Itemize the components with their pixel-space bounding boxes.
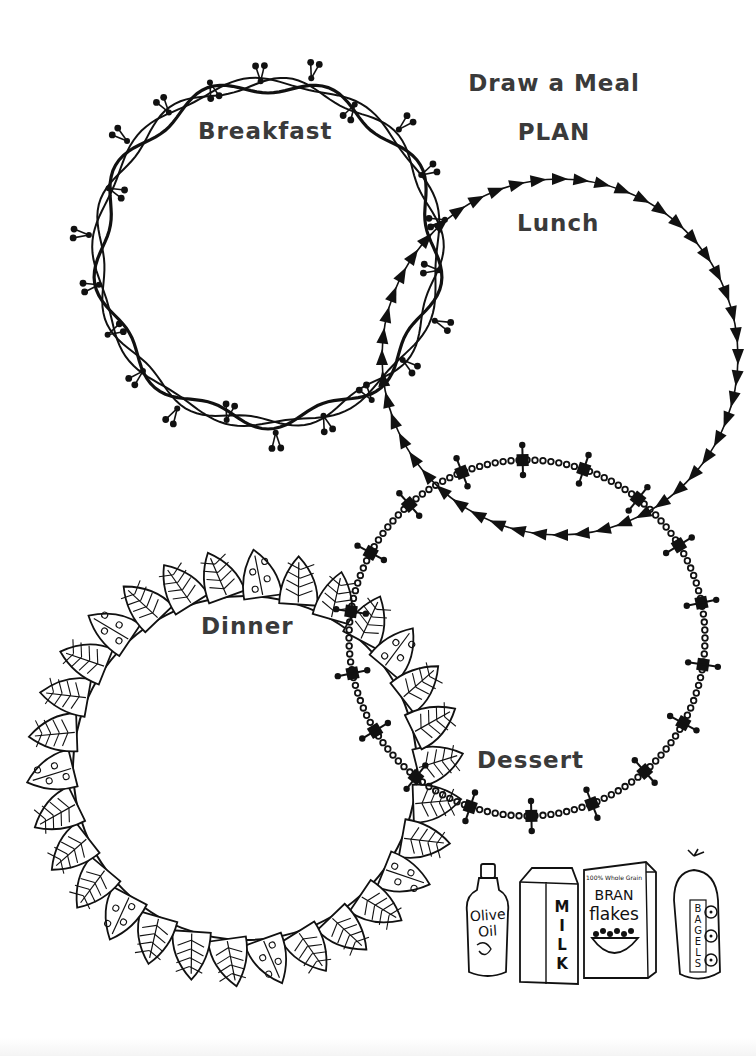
svg-text:flakes: flakes [589, 904, 639, 924]
paper-edge-shading [0, 1038, 756, 1056]
milk-carton-icon: MILK [520, 868, 578, 984]
svg-text:L: L [557, 936, 567, 954]
svg-text:100% Whole Grain: 100% Whole Grain [586, 874, 642, 881]
bagels-bag-icon: BAGELS [674, 849, 720, 979]
title-line-1: Draw a Meal [452, 72, 656, 95]
groceries-illustration: OliveOil MILK 100% Whole GrainBRANflakes… [467, 849, 720, 984]
svg-text:E: E [695, 936, 701, 947]
svg-text:L: L [695, 947, 701, 958]
coloring-page: OliveOil MILK 100% Whole GrainBRANflakes… [0, 0, 756, 1056]
svg-text:Oil: Oil [478, 922, 498, 939]
page-title: Draw a Meal PLAN [452, 72, 656, 144]
svg-text:A: A [695, 914, 702, 925]
title-line-2: PLAN [452, 121, 656, 144]
svg-text:Olive: Olive [469, 906, 506, 924]
svg-text:K: K [556, 955, 569, 973]
meal-plan-illustration: OliveOil MILK 100% Whole GrainBRANflakes… [0, 0, 756, 1056]
lunch-label: Lunch [517, 212, 599, 235]
dinner-label: Dinner [201, 615, 294, 638]
svg-text:M: M [555, 898, 570, 916]
svg-text:G: G [694, 925, 702, 936]
svg-text:BRAN: BRAN [595, 887, 634, 903]
breakfast-label: Breakfast [198, 120, 333, 143]
svg-text:B: B [695, 903, 702, 914]
svg-text:S: S [695, 958, 701, 969]
dessert-label: Dessert [477, 749, 584, 772]
bran-flakes-box-icon: 100% Whole GrainBRANflakes [584, 862, 656, 978]
svg-text:I: I [559, 917, 565, 935]
olive-oil-bottle-icon: OliveOil [467, 864, 509, 976]
